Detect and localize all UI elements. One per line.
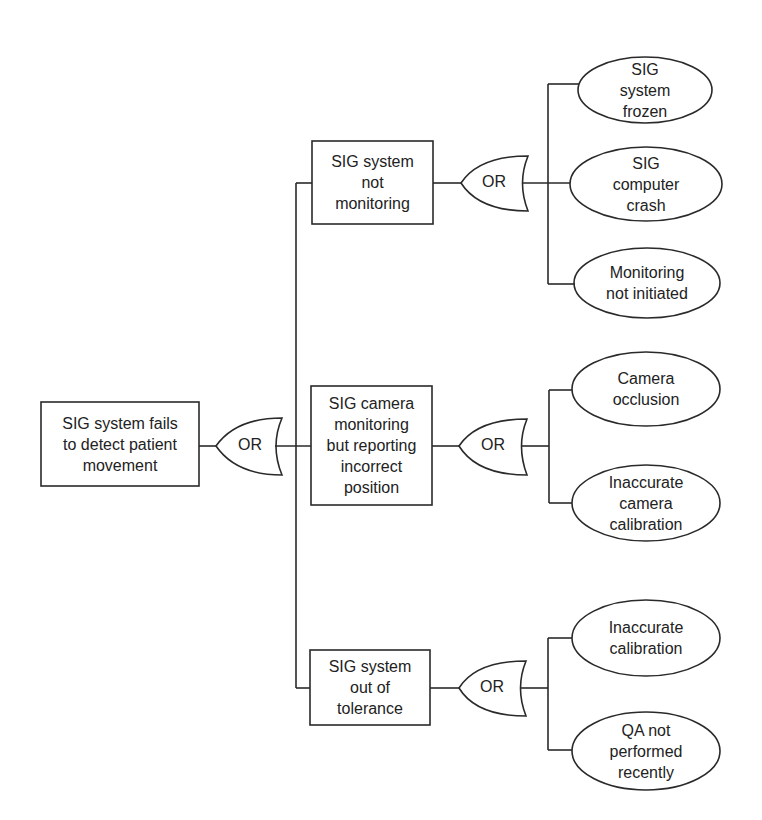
cause-label-1-3: Monitoring not initiated	[574, 248, 720, 318]
or-gate-root-label: OR	[230, 436, 270, 454]
or-gate-1-label: OR	[474, 173, 514, 191]
cause-label-1-1: SIG system frozen	[578, 57, 712, 123]
cause-label-1-2: SIG computer crash	[570, 147, 722, 221]
cause-label-3-2: QA not performed recently	[572, 712, 720, 790]
or-gate-2-label: OR	[473, 436, 513, 454]
cause-label-2-1: Camera occlusion	[572, 352, 720, 426]
root-event-label: SIG system fails to detect patient movem…	[41, 402, 199, 486]
branch-label-1: SIG system not monitoring	[312, 141, 433, 224]
branch-label-3: SIG system out of tolerance	[310, 650, 430, 725]
branch-label-2: SIG camera monitoring but reporting inco…	[311, 386, 432, 505]
cause-label-3-1: Inaccurate calibration	[572, 600, 720, 676]
cause-label-2-2: Inaccurate camera calibration	[572, 465, 720, 541]
or-gate-3-label: OR	[472, 678, 512, 696]
